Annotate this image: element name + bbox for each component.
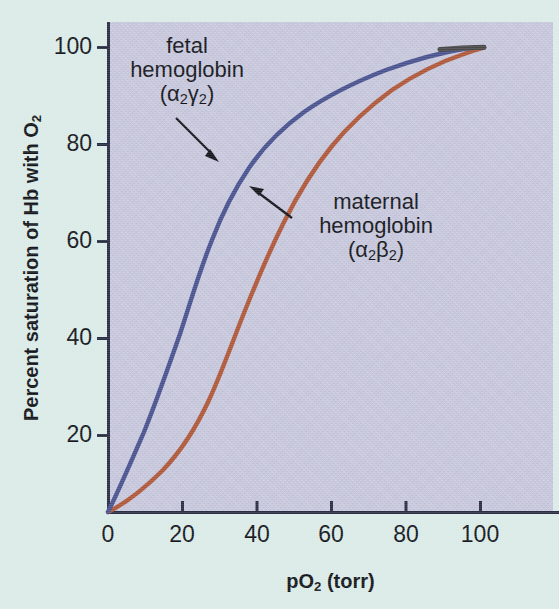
- x-tick-label-80: 80: [376, 521, 436, 548]
- y-axis-title-text: Percent saturation of Hb with O: [20, 122, 42, 421]
- fetal-formula-gamma: γ: [188, 81, 199, 106]
- y-axis-title: Percent saturation of Hb with O2: [20, 73, 44, 463]
- chart-svg: [0, 0, 559, 609]
- fetal-label-formula: (α2γ2): [122, 82, 252, 108]
- oxygen-dissociation-chart-figure: 100 80 60 40 20 0 20 40 60 80 100 Percen…: [0, 0, 559, 609]
- x-axis-title-unit: (torr): [321, 570, 374, 592]
- x-axis-title-text: pO: [286, 570, 314, 592]
- maternal-formula-beta-sub: 2: [389, 247, 397, 263]
- y-tick-marks: [97, 48, 108, 436]
- maternal-hemoglobin-label: maternal hemoglobin (α2β2): [296, 190, 456, 263]
- maternal-leader-arrow: [249, 186, 292, 218]
- x-tick-label-60: 60: [301, 521, 361, 548]
- maternal-formula-beta: β: [376, 237, 389, 262]
- maternal-label-line2: hemoglobin: [296, 214, 456, 238]
- maternal-label-formula: (α2β2): [296, 238, 456, 264]
- y-axis-title-subscript: 2: [29, 115, 44, 122]
- maternal-formula-alpha: α: [355, 237, 368, 262]
- fetal-leader-arrow: [176, 118, 219, 162]
- maternal-formula-alpha-sub: 2: [368, 247, 376, 263]
- x-tick-label-20: 20: [152, 521, 212, 548]
- fetal-label-line1: fetal: [122, 34, 252, 58]
- curve-overlap-tail: [440, 47, 484, 49]
- fetal-label-line2: hemoglobin: [122, 58, 252, 82]
- x-axis-title: pO2 (torr): [108, 570, 553, 594]
- fetal-formula-gamma-sub: 2: [199, 91, 207, 107]
- maternal-formula-close: ): [397, 237, 404, 262]
- y-tick-label-100: 100: [26, 33, 92, 60]
- x-tick-marks: [183, 501, 481, 512]
- fetal-formula-close: ): [207, 81, 214, 106]
- curve-fetal-hemoglobin: [108, 47, 484, 512]
- x-tick-label-40: 40: [227, 521, 287, 548]
- x-tick-label-0: 0: [78, 521, 138, 548]
- x-tick-label-100: 100: [450, 521, 510, 548]
- fetal-hemoglobin-label: fetal hemoglobin (α2γ2): [122, 34, 252, 107]
- fetal-formula-open: (: [160, 81, 167, 106]
- fetal-formula-alpha: α: [167, 81, 180, 106]
- fetal-formula-alpha-sub: 2: [180, 91, 188, 107]
- maternal-label-line1: maternal: [296, 190, 456, 214]
